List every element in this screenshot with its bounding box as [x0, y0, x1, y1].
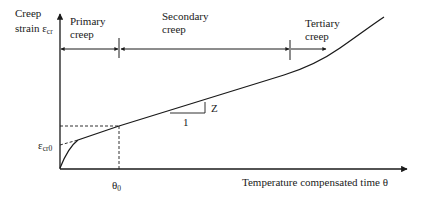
creep-curve-diagram: Creep strain εcr Temperature compensated… [0, 0, 421, 203]
theta0-sub: 0 [117, 184, 121, 193]
phase-label-primary-line1: Primary [70, 15, 106, 27]
y-axis-label-line2: strain εcr [15, 22, 53, 36]
phase-label-tertiary-line2: creep [305, 30, 329, 42]
theta0-label: θ0 [112, 179, 121, 193]
y-axis-label-sub: cr [47, 27, 53, 36]
creep-curve [60, 17, 384, 168]
eps-cr0-label: εcr0 [38, 139, 52, 153]
slope-rise-label: Z [211, 102, 218, 114]
slope-triangle [170, 102, 205, 113]
phase-label-secondary-line2: creep [162, 23, 186, 35]
y-axis-label-main: strain ε [15, 22, 47, 34]
phase-label-secondary-line1: Secondary [162, 10, 209, 22]
slope-run-label: 1 [183, 116, 189, 128]
eps-cr0-sub: cr0 [43, 144, 53, 153]
x-axis-label: Temperature compensated time θ [242, 176, 388, 188]
phase-label-primary-line2: creep [70, 28, 94, 40]
phase-label-tertiary-line1: Tertiary [305, 17, 340, 29]
y-axis-label-line1: Creep [15, 7, 42, 19]
